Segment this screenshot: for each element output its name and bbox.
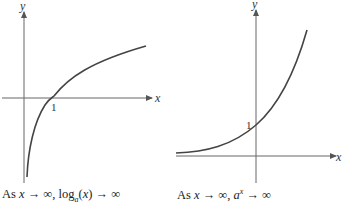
log-graph: y x 1	[2, 0, 161, 183]
caption-text: → ∞, log	[25, 187, 75, 201]
diagram-canvas: y x 1 y x 1	[0, 0, 343, 207]
exp-curve	[176, 30, 307, 153]
log-curve	[27, 46, 146, 177]
log-x-label: x	[154, 91, 161, 105]
log-caption: As x → ∞, loga(x) → ∞	[2, 187, 120, 204]
exp-caption: As x → ∞, ax → ∞	[177, 187, 271, 203]
log-y-label: y	[19, 0, 26, 13]
caption-text: → ∞,	[200, 188, 234, 202]
exp-x-label: x	[335, 150, 342, 164]
log-tick-one: 1	[51, 101, 57, 113]
exp-graph: y x 1	[176, 0, 342, 183]
caption-text: As	[177, 188, 194, 202]
exp-y-label: y	[251, 0, 258, 11]
caption-text: → ∞	[243, 188, 271, 202]
caption-text: As	[2, 187, 19, 201]
caption-text: ) → ∞	[88, 187, 120, 201]
